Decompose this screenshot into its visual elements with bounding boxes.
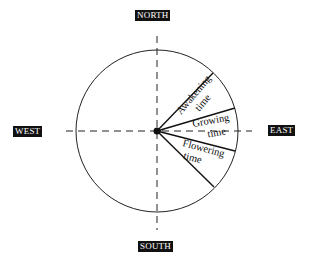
segment-growing: Growing time <box>191 112 233 142</box>
west-label: WEST <box>13 126 42 137</box>
north-label: NORTH <box>135 10 170 21</box>
compass-diagram: Awakening time Growing time Flowering ti… <box>0 0 309 267</box>
east-label: EAST <box>268 125 295 136</box>
center-dot <box>154 128 161 135</box>
south-label: SOUTH <box>138 241 173 252</box>
segment-flowering: Flowering time <box>178 137 226 171</box>
svg-text:time: time <box>206 125 227 139</box>
svg-text:Awakening: Awakening <box>174 72 213 116</box>
